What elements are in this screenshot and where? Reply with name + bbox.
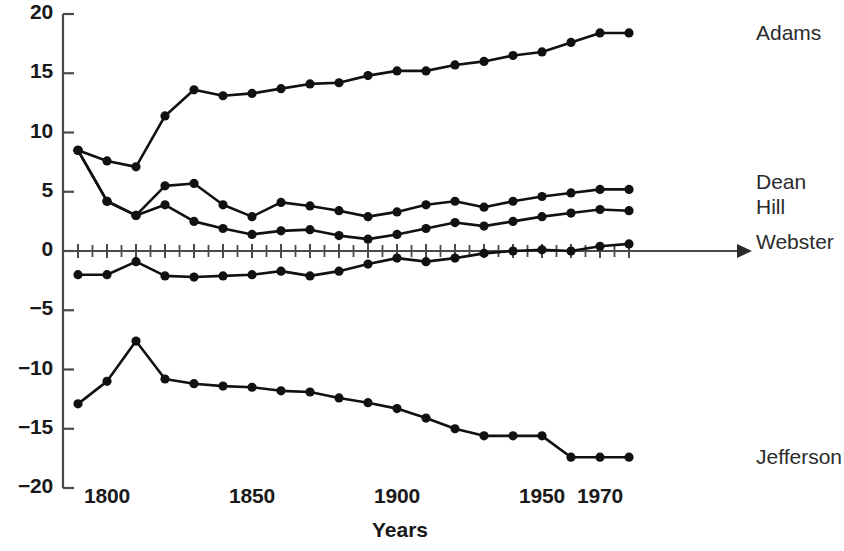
data-point-marker: [479, 249, 488, 258]
data-point-marker: [247, 230, 256, 239]
data-point-marker: [363, 235, 372, 244]
data-point-marker: [595, 205, 604, 214]
data-point-marker: [73, 270, 82, 279]
data-point-marker: [305, 387, 314, 396]
data-point-marker: [363, 71, 372, 80]
data-point-marker: [160, 271, 169, 280]
data-point-marker: [508, 431, 517, 440]
data-point-marker: [624, 28, 633, 37]
data-point-marker: [537, 245, 546, 254]
data-point-marker: [276, 386, 285, 395]
data-point-marker: [595, 453, 604, 462]
data-series-adams: [73, 28, 633, 171]
data-point-marker: [247, 212, 256, 221]
data-point-marker: [421, 224, 430, 233]
data-point-marker: [334, 231, 343, 240]
data-point-marker: [189, 272, 198, 281]
series-label-dean: Dean: [756, 169, 806, 194]
data-point-marker: [595, 242, 604, 251]
data-point-marker: [160, 181, 169, 190]
data-point-marker: [450, 197, 459, 206]
data-point-marker: [276, 267, 285, 276]
data-point-marker: [131, 211, 140, 220]
data-point-marker: [189, 179, 198, 188]
data-point-marker: [566, 246, 575, 255]
data-point-marker: [334, 206, 343, 215]
data-point-marker: [189, 217, 198, 226]
data-point-marker: [305, 79, 314, 88]
data-point-marker: [624, 185, 633, 194]
data-point-marker: [218, 224, 227, 233]
data-point-marker: [450, 60, 459, 69]
data-point-marker: [102, 270, 111, 279]
data-point-marker: [363, 259, 372, 268]
series-label-adams: Adams: [756, 20, 821, 45]
data-point-marker: [537, 192, 546, 201]
data-point-marker: [102, 197, 111, 206]
data-series-dean: [73, 146, 633, 222]
data-point-marker: [247, 89, 256, 98]
data-point-marker: [479, 222, 488, 231]
data-point-marker: [131, 257, 140, 266]
data-point-marker: [102, 377, 111, 386]
data-point-marker: [73, 146, 82, 155]
line-chart-plot: [0, 0, 844, 551]
data-point-marker: [160, 200, 169, 209]
data-point-marker: [218, 381, 227, 390]
data-point-marker: [566, 188, 575, 197]
series-line: [78, 341, 629, 457]
y-axis-tick-label: 20: [30, 0, 53, 24]
data-point-marker: [305, 201, 314, 210]
data-point-marker: [624, 206, 633, 215]
data-point-marker: [450, 254, 459, 263]
data-point-marker: [392, 66, 401, 75]
data-point-marker: [102, 156, 111, 165]
data-point-marker: [131, 336, 140, 345]
data-point-marker: [131, 162, 140, 171]
data-point-marker: [450, 218, 459, 227]
data-point-marker: [508, 51, 517, 60]
data-point-marker: [421, 257, 430, 266]
data-point-marker: [595, 28, 604, 37]
x-axis-arrowhead: [737, 244, 752, 258]
data-point-marker: [276, 84, 285, 93]
data-point-marker: [479, 203, 488, 212]
y-axis-tick-label: −5: [29, 296, 53, 320]
data-point-marker: [392, 230, 401, 239]
series-label-jefferson: Jefferson: [756, 444, 842, 469]
data-point-marker: [508, 197, 517, 206]
data-point-marker: [421, 413, 430, 422]
data-point-marker: [479, 57, 488, 66]
y-axis-tick-label: 10: [30, 119, 53, 143]
series-label-hill: Hill: [756, 194, 785, 219]
data-point-marker: [392, 254, 401, 263]
data-point-marker: [305, 271, 314, 280]
chart-container: 20151050−5−10−15−20 18001850190019501970…: [0, 0, 844, 551]
data-point-marker: [218, 271, 227, 280]
data-point-marker: [305, 225, 314, 234]
data-point-marker: [189, 379, 198, 388]
y-axis-tick-label: −10: [18, 356, 53, 380]
axes-layer: [63, 14, 752, 488]
data-point-marker: [334, 393, 343, 402]
x-axis-tick-label: 1800: [67, 484, 147, 508]
y-axis-tick-label: −15: [18, 415, 53, 439]
data-point-marker: [566, 453, 575, 462]
y-axis-tick-label: −20: [18, 474, 53, 498]
x-axis-title: Years: [330, 518, 470, 542]
data-point-marker: [508, 246, 517, 255]
y-axis-tick-label: 0: [42, 237, 53, 261]
data-point-marker: [392, 207, 401, 216]
data-point-marker: [392, 404, 401, 413]
data-point-marker: [508, 217, 517, 226]
data-point-marker: [421, 66, 430, 75]
data-point-marker: [566, 208, 575, 217]
y-axis-tick-label: 15: [30, 59, 53, 83]
data-point-marker: [276, 226, 285, 235]
data-point-marker: [160, 374, 169, 383]
data-point-marker: [363, 398, 372, 407]
data-point-marker: [189, 85, 198, 94]
data-point-marker: [421, 200, 430, 209]
data-point-marker: [537, 47, 546, 56]
data-point-marker: [247, 383, 256, 392]
